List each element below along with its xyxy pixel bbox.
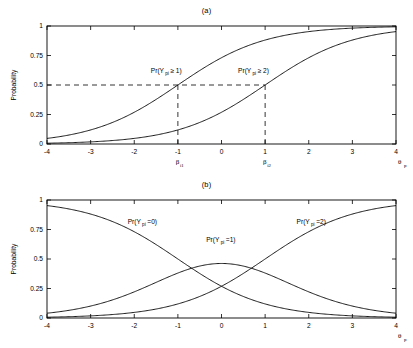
y-tick-label: 0.25 bbox=[30, 285, 43, 292]
x-tick-label: 4 bbox=[394, 148, 398, 155]
curve bbox=[47, 206, 396, 318]
svg-text:i2: i2 bbox=[267, 163, 271, 168]
curve bbox=[47, 206, 396, 318]
svg-text:θ: θ bbox=[398, 158, 402, 166]
svg-text:pi: pi bbox=[311, 222, 315, 227]
x-tick-label: -4 bbox=[44, 148, 50, 155]
x-tick-label: 1 bbox=[263, 148, 267, 155]
x-tick-label: 4 bbox=[394, 322, 398, 329]
panel-b: (b) -4-3-2-10123400.250.50.751Probabilit… bbox=[0, 174, 413, 348]
x-tick-label: 2 bbox=[307, 148, 311, 155]
x-tick-label: -2 bbox=[131, 148, 137, 155]
svg-text:p: p bbox=[404, 163, 407, 168]
figure-graded-response-model: (a) -4-3-2-10123400.250.50.751Probabilit… bbox=[0, 0, 413, 348]
y-tick-label: 1 bbox=[39, 22, 43, 29]
curve bbox=[47, 27, 396, 139]
svg-text:pi: pi bbox=[142, 222, 146, 227]
y-tick-label: 0.75 bbox=[30, 52, 43, 59]
x-tick-label: 2 bbox=[307, 322, 311, 329]
x-axis-label: θp bbox=[398, 332, 407, 342]
curve bbox=[47, 263, 396, 313]
x-tick-label: -1 bbox=[175, 148, 181, 155]
svg-text:i1: i1 bbox=[180, 163, 184, 168]
curve bbox=[47, 32, 396, 144]
plot-frame bbox=[47, 200, 396, 318]
svg-text:Pr(Y: Pr(Y bbox=[128, 218, 142, 226]
y-tick-label: 1 bbox=[39, 196, 43, 203]
panel-b-plot: -4-3-2-10123400.250.50.751ProbabilityθpP… bbox=[0, 174, 413, 348]
svg-text:Pr(Y: Pr(Y bbox=[206, 236, 220, 244]
x-tick-label: 0 bbox=[220, 322, 224, 329]
svg-text:pi: pi bbox=[165, 71, 169, 76]
x-tick-label: -4 bbox=[44, 322, 50, 329]
y-tick-label: 0.25 bbox=[30, 111, 43, 118]
svg-text:pi: pi bbox=[252, 71, 256, 76]
curve-annotation: Pr(Ypi ≥ 2) bbox=[238, 67, 269, 76]
svg-text:Pr(Y: Pr(Y bbox=[151, 67, 165, 75]
x-tick-label: 0 bbox=[220, 148, 224, 155]
x-tick-label: -3 bbox=[88, 322, 94, 329]
svg-text:=2): =2) bbox=[316, 218, 326, 226]
y-tick-label: 0.5 bbox=[34, 81, 43, 88]
y-axis-label: Probability bbox=[10, 69, 18, 100]
svg-text:Pr(Y: Pr(Y bbox=[238, 67, 252, 75]
svg-text:θ: θ bbox=[398, 332, 402, 340]
y-tick-label: 0 bbox=[39, 314, 43, 321]
y-tick-label: 0.75 bbox=[30, 226, 43, 233]
x-tick-label: -3 bbox=[88, 148, 94, 155]
panel-a-title: (a) bbox=[0, 6, 413, 15]
svg-text:≥ 1): ≥ 1) bbox=[170, 67, 181, 75]
threshold-label: βi2 bbox=[263, 158, 272, 168]
curve-annotation: Pr(Ypi=0) bbox=[128, 218, 157, 227]
x-tick-label: -1 bbox=[175, 322, 181, 329]
svg-text:≥ 2): ≥ 2) bbox=[258, 67, 269, 75]
svg-text:=1): =1) bbox=[226, 236, 236, 244]
x-tick-label: 3 bbox=[351, 322, 355, 329]
svg-text:p: p bbox=[404, 337, 407, 342]
curve-annotation: Pr(Ypi ≥ 1) bbox=[151, 67, 182, 76]
y-tick-label: 0 bbox=[39, 140, 43, 147]
panel-a: (a) -4-3-2-10123400.250.50.751Probabilit… bbox=[0, 0, 413, 174]
threshold-label: βi1 bbox=[176, 158, 185, 168]
panel-b-title: (b) bbox=[0, 180, 413, 189]
svg-text:pi: pi bbox=[221, 240, 225, 245]
x-tick-label: -2 bbox=[131, 322, 137, 329]
panel-a-plot: -4-3-2-10123400.250.50.751ProbabilityθpP… bbox=[0, 0, 413, 174]
x-tick-label: 3 bbox=[351, 148, 355, 155]
curve-annotation: Pr(Ypi=1) bbox=[206, 236, 235, 245]
y-axis-label: Probability bbox=[10, 243, 18, 274]
svg-text:=0): =0) bbox=[147, 218, 157, 226]
x-tick-label: 1 bbox=[263, 322, 267, 329]
x-axis-label: θp bbox=[398, 158, 407, 168]
svg-text:Pr(Y: Pr(Y bbox=[297, 218, 311, 226]
y-tick-label: 0.5 bbox=[34, 255, 43, 262]
